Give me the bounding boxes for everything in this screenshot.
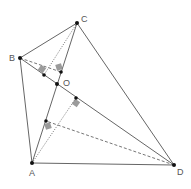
point-a [30, 161, 34, 165]
perp-a-to-bd [32, 98, 76, 163]
points [18, 21, 176, 167]
side-cd [77, 23, 174, 165]
right-angle-mark [72, 99, 80, 107]
label-a: A [29, 168, 35, 178]
side-da [32, 163, 174, 165]
right-angle-mark [44, 122, 52, 130]
foot-point [44, 119, 48, 123]
label-c: C [81, 14, 88, 24]
side-bc [20, 23, 77, 58]
point-o [55, 82, 59, 86]
label-b: B [9, 53, 15, 63]
foot-point [74, 96, 78, 100]
label-d: D [177, 167, 184, 177]
side-ab [20, 58, 32, 163]
geometry-diagram: A B C D O [0, 0, 191, 189]
label-o: O [63, 78, 70, 88]
solid-lines [20, 23, 174, 165]
point-b [18, 56, 22, 60]
point-c [75, 21, 79, 25]
point-d [172, 163, 176, 167]
right-angle-marks [38, 63, 80, 130]
perp-d-to-ac [46, 121, 174, 165]
foot-point [42, 73, 46, 77]
foot-point [59, 70, 63, 74]
